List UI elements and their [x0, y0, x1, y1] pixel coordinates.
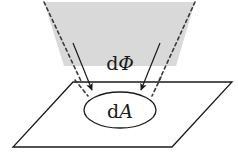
area-label: dA	[107, 100, 133, 122]
figure-root: dΦ dA	[0, 0, 238, 156]
diagram-canvas: dΦ dA	[0, 0, 238, 156]
flux-label-d: d	[106, 52, 118, 74]
area-label-d: d	[107, 100, 119, 122]
flux-label-symbol: Φ	[118, 52, 134, 74]
area-label-symbol: A	[117, 100, 133, 122]
flux-label: dΦ	[106, 52, 134, 74]
